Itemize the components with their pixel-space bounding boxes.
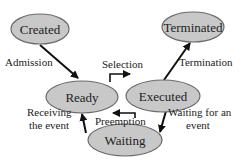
node-waiting: Waiting (88, 124, 162, 156)
edge-label-termination: Termination (179, 56, 233, 68)
edge-selection (110, 74, 130, 82)
edge-label-waiting-line2: event (186, 119, 210, 131)
process-state-diagram: Created Terminated Ready Executed Waitin… (0, 0, 247, 165)
edge-label-selection: Selection (102, 58, 143, 70)
node-created: Created (11, 14, 69, 44)
node-terminated: Terminated (162, 12, 224, 42)
edge-label-receiving-line1: Receiving (27, 106, 72, 118)
edge-label-preemption: Preemption (95, 115, 146, 127)
node-executed-label: Executed (139, 89, 188, 104)
edge-label-waiting-line1: Waiting for an (168, 106, 232, 118)
node-created-label: Created (20, 22, 61, 37)
edge-label-admission: Admission (5, 56, 53, 68)
edge-receiving-event (82, 114, 86, 133)
edge-label-receiving-line2: the event (29, 119, 69, 131)
node-terminated-label: Terminated (163, 20, 223, 35)
edge-waiting-for-event (160, 111, 166, 132)
node-waiting-label: Waiting (105, 133, 146, 148)
node-ready-label: Ready (65, 90, 99, 105)
